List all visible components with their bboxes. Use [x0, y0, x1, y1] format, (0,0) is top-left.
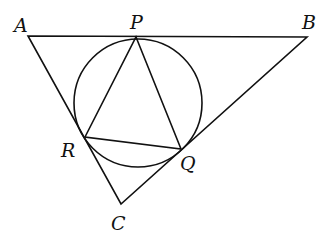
label-b: B: [301, 11, 316, 33]
label-a: A: [12, 14, 28, 36]
geometry-diagram: A P B R Q C: [0, 0, 336, 244]
triangle-pqr: [85, 37, 181, 149]
label-c: C: [111, 212, 126, 234]
label-q: Q: [180, 152, 196, 174]
triangle-abc: [28, 36, 307, 204]
incircle: [74, 39, 202, 167]
label-p: P: [129, 11, 144, 33]
label-r: R: [60, 139, 75, 161]
